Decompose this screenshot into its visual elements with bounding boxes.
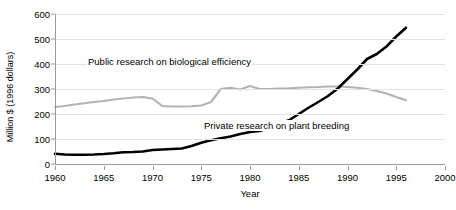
x-axis-title: Year — [55, 188, 445, 199]
x-tick-mark — [299, 166, 300, 170]
y-tick-label: 400 — [34, 59, 50, 70]
gridline — [55, 14, 445, 15]
x-tick-label: 1995 — [386, 172, 407, 183]
series-label-private-research: Private research on plant breeding — [203, 120, 350, 131]
y-tick-label: 500 — [34, 34, 50, 45]
gridline — [55, 139, 445, 140]
y-axis-title: Million $ (1996 dollars) — [3, 12, 17, 182]
x-tick-label: 1960 — [44, 172, 65, 183]
x-tick-mark — [445, 166, 446, 170]
x-tick-label: 1970 — [142, 172, 163, 183]
gridline — [55, 39, 445, 40]
x-axis-line — [55, 164, 445, 165]
x-tick-mark — [55, 166, 56, 170]
gridline — [55, 114, 445, 115]
series-label-public-research: Public research on biological efficiency — [87, 56, 252, 67]
x-tick-label: 1985 — [288, 172, 309, 183]
series-line — [55, 28, 406, 155]
y-tick-label: 300 — [34, 84, 50, 95]
plot-area: 0100200300400500600 19601965197019751980… — [55, 14, 445, 164]
y-tick-label: 200 — [34, 109, 50, 120]
x-tick-label: 1975 — [191, 172, 212, 183]
x-tick-label: 2000 — [434, 172, 455, 183]
x-tick-mark — [104, 166, 105, 170]
x-tick-mark — [396, 166, 397, 170]
gridline — [55, 89, 445, 90]
x-tick-label: 1980 — [239, 172, 260, 183]
y-tick-label: 600 — [34, 9, 50, 20]
y-tick-label: 0 — [45, 159, 50, 170]
x-tick-mark — [348, 166, 349, 170]
y-tick-label: 100 — [34, 134, 50, 145]
x-tick-mark — [250, 166, 251, 170]
x-tick-label: 1965 — [93, 172, 114, 183]
x-tick-mark — [201, 166, 202, 170]
x-tick-mark — [153, 166, 154, 170]
y-axis-line — [55, 14, 56, 164]
x-tick-label: 1990 — [337, 172, 358, 183]
